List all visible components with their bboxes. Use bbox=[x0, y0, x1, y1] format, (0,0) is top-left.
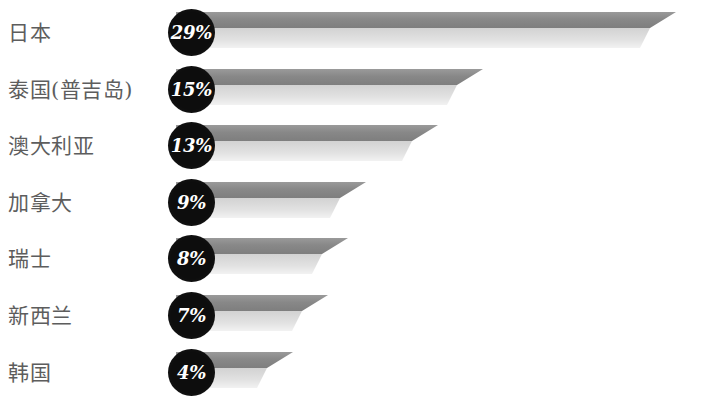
chart-row: 瑞士8% bbox=[0, 231, 708, 288]
percentage-badge: 7% bbox=[168, 292, 215, 339]
category-label: 日本 bbox=[8, 5, 51, 62]
category-label: 新西兰 bbox=[8, 288, 73, 345]
value-bar bbox=[176, 69, 483, 105]
category-label: 加拿大 bbox=[8, 175, 73, 232]
bar-front-face bbox=[176, 28, 650, 48]
percentage-badge: 15% bbox=[168, 66, 215, 113]
bar-top-face bbox=[176, 125, 438, 141]
percentage-badge: 9% bbox=[168, 179, 215, 226]
chart-row: 澳大利亚13% bbox=[0, 118, 708, 175]
percentage-badge-label: 15% bbox=[168, 66, 215, 113]
percentage-badge-label: 9% bbox=[168, 179, 215, 226]
percentage-badge: 4% bbox=[168, 349, 215, 396]
value-bar bbox=[176, 125, 438, 161]
chart-row: 新西兰7% bbox=[0, 288, 708, 345]
percentage-badge: 8% bbox=[168, 235, 215, 282]
value-bar bbox=[176, 12, 676, 48]
bar-top-face bbox=[176, 12, 676, 28]
bar-front-face bbox=[176, 85, 457, 105]
category-label: 泰国(普吉岛) bbox=[8, 62, 133, 119]
percentage-badge: 13% bbox=[168, 122, 215, 169]
percentage-badge-label: 4% bbox=[168, 349, 215, 396]
percentage-badge-label: 29% bbox=[168, 9, 215, 56]
percentage-badge-label: 8% bbox=[168, 235, 215, 282]
category-label: 韩国 bbox=[8, 345, 51, 401]
chart-row: 泰国(普吉岛)15% bbox=[0, 62, 708, 119]
chart-row: 日本29% bbox=[0, 5, 708, 62]
percentage-badge-label: 7% bbox=[168, 292, 215, 339]
horizontal-bar-chart: 日本29%泰国(普吉岛)15%澳大利亚13%加拿大9%瑞士8%新西兰7%韩国4% bbox=[0, 0, 708, 401]
chart-row: 加拿大9% bbox=[0, 175, 708, 232]
category-label: 澳大利亚 bbox=[8, 118, 94, 175]
bar-shape bbox=[176, 125, 438, 161]
percentage-badge-label: 13% bbox=[168, 122, 215, 169]
bar-top-face bbox=[176, 69, 483, 85]
percentage-badge: 29% bbox=[168, 9, 215, 56]
bar-shape bbox=[176, 12, 676, 48]
category-label: 瑞士 bbox=[8, 231, 51, 288]
bar-shape bbox=[176, 69, 483, 105]
chart-row: 韩国4% bbox=[0, 345, 708, 401]
